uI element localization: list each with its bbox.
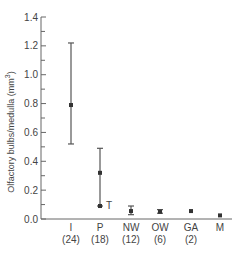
data-point (218, 213, 222, 217)
x-category-label: M (216, 222, 224, 233)
data-point (158, 210, 162, 214)
error-bar (97, 148, 103, 206)
y-axis: 0.00.20.40.60.81.01.21.4 (24, 12, 46, 225)
y-tick-label: 0.2 (24, 185, 38, 196)
x-category-count: (12) (122, 234, 140, 245)
y-tick-label: 0.0 (24, 214, 38, 225)
annotation-label: T (106, 200, 112, 211)
y-tick-label: 1.2 (24, 40, 38, 51)
plot-area: T (68, 43, 222, 217)
x-category-count: (2) (185, 234, 197, 245)
x-category-count: (24) (62, 234, 80, 245)
y-tick-label: 0.6 (24, 127, 38, 138)
data-point (98, 171, 102, 175)
y-tick-label: 0.4 (24, 156, 38, 167)
chart: 0.00.20.40.60.81.01.21.4 I(24)P(18)NW(12… (0, 0, 237, 257)
x-axis: I(24)P(18)NW(12)OW(6)GA(2)M (41, 219, 232, 245)
x-category-label: GA (184, 222, 199, 233)
data-point-secondary (98, 204, 102, 208)
x-category-label: I (70, 222, 73, 233)
x-category-count: (18) (91, 234, 109, 245)
error-bar (68, 43, 74, 144)
y-axis-title: Olfactory bulbs/medulla (mm3) (4, 71, 16, 192)
y-tick-label: 1.0 (24, 69, 38, 80)
x-category-label: OW (151, 222, 169, 233)
y-tick-label: 0.8 (24, 98, 38, 109)
x-category-count: (6) (154, 234, 166, 245)
data-point (69, 103, 73, 107)
x-category-label: NW (123, 222, 140, 233)
data-point (189, 209, 193, 213)
y-tick-label: 1.4 (24, 12, 38, 23)
data-point (129, 209, 133, 213)
x-category-label: P (97, 222, 104, 233)
